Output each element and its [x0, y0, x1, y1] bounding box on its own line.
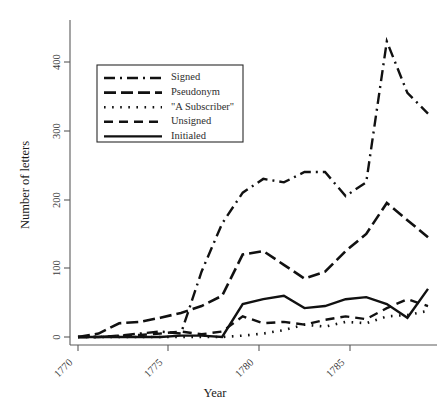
x-tick-label-1780: 1780 — [233, 357, 256, 380]
series-line-pseudonym — [78, 203, 428, 337]
legend-label-initialed: Initialed — [171, 130, 207, 141]
y-tick-label-400: 400 — [51, 54, 62, 70]
legend-label-unsigned: Unsigned — [171, 115, 212, 126]
y-tick-label-100: 100 — [51, 260, 62, 276]
x-axis-ticks — [78, 345, 350, 351]
legend-label-asubscriber: "A Subscriber" — [171, 101, 234, 112]
legend-label-signed: Signed — [171, 71, 201, 82]
chart-figure: 400 300 200 100 0 1770 1775 1780 1785 Nu… — [0, 0, 442, 408]
chart-legend: SignedPseudonym"A Subscriber"UnsignedIni… — [97, 65, 243, 142]
y-tick-label-300: 300 — [51, 123, 62, 139]
y-axis-ticks — [64, 62, 70, 337]
x-axis-title: Year — [203, 386, 227, 400]
x-axis-tick-labels: 1770 1775 1780 1785 — [52, 357, 347, 380]
x-tick-label-1785: 1785 — [324, 357, 347, 380]
y-axis-tick-labels: 400 300 200 100 0 — [51, 54, 62, 340]
x-tick-label-1770: 1770 — [52, 357, 75, 380]
line-chart-svg: 400 300 200 100 0 1770 1775 1780 1785 Nu… — [0, 0, 442, 408]
y-tick-label-0: 0 — [51, 334, 62, 339]
x-tick-label-1775: 1775 — [142, 357, 165, 380]
y-tick-label-200: 200 — [51, 192, 62, 208]
series-line-unsigned — [78, 299, 428, 337]
y-axis-title: Number of letters — [18, 141, 32, 229]
legend-label-pseudonym: Pseudonym — [171, 86, 220, 97]
